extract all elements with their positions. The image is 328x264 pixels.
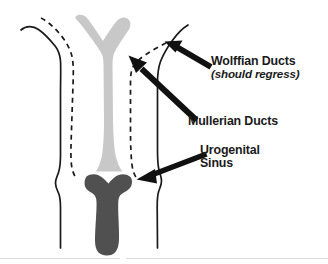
diagram-figure: Wolffian Ducts (should regress) Mulleria… (0, 0, 328, 264)
body-outline-right (157, 25, 188, 248)
urogenital-arrow (137, 152, 208, 184)
label-wolffian-ducts-title: Wolffian Ducts (211, 55, 299, 68)
label-urogenital-sinus-line2: Sinus (200, 157, 260, 170)
body-outline-left (21, 27, 61, 248)
urogenital-arrow-head (137, 169, 158, 184)
label-mullerian-ducts: Mullerian Ducts (188, 115, 278, 128)
label-urogenital-sinus: Urogenital Sinus (200, 144, 260, 169)
label-wolffian-ducts-note: (should regress) (211, 68, 299, 80)
wolffian-arrow (165, 41, 213, 70)
wolffian-duct-left (41, 18, 76, 178)
mullerian-arrow (129, 56, 199, 123)
label-mullerian-ducts-title: Mullerian Ducts (188, 115, 278, 128)
urogenital-sinus-body (85, 174, 133, 255)
label-wolffian-ducts: Wolffian Ducts (should regress) (211, 55, 299, 79)
footer-rule-right (126, 258, 328, 259)
urogenital-arrow-shaft (151, 152, 208, 178)
anatomy-diagram-svg (0, 0, 328, 264)
label-urogenital-sinus-line1: Urogenital (200, 144, 260, 157)
mullerian-duct-body (76, 15, 131, 172)
footer-rule-left (0, 258, 120, 259)
wolffian-arrow-shaft (174, 44, 213, 70)
mullerian-ducts-shape (76, 15, 131, 172)
urogenital-sinus-shape (85, 174, 133, 255)
